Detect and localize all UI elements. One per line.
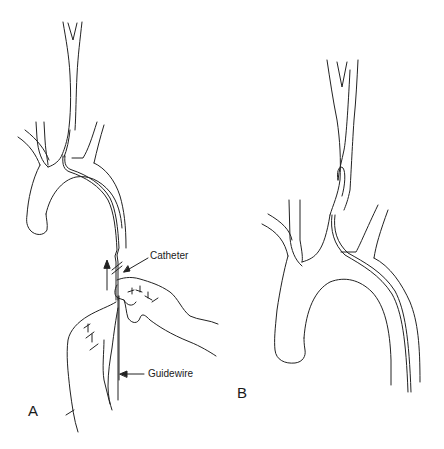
panel-b-vessels xyxy=(262,60,420,392)
panel-a-leader-lines xyxy=(120,258,148,377)
catheter-label: Catheter xyxy=(150,250,188,261)
panel-b-label: B xyxy=(237,384,247,401)
guidewire-label: Guidewire xyxy=(148,368,193,379)
panel-a-vessels xyxy=(18,22,126,300)
illustration-canvas xyxy=(0,0,444,449)
aortic-arch-catheterization-figure: Catheter Guidewire A B xyxy=(0,0,444,449)
panel-a-hands xyxy=(66,277,218,432)
panel-a-label: A xyxy=(28,402,38,419)
